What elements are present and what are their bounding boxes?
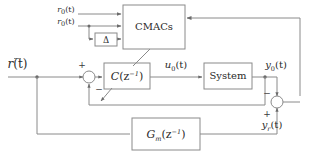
junction-dot-r0-second — [88, 25, 91, 28]
sign-sumleft-plus: + — [78, 60, 86, 70]
label-refmodel-close: ) — [181, 128, 185, 141]
label-rbar: r(t) — [8, 57, 28, 71]
label-rbar-arg: (t) — [13, 57, 27, 71]
svg-text:u0(t): u0(t) — [165, 59, 188, 73]
label-controller-exp: −1 — [129, 70, 139, 78]
label-r0-second-arg: (t) — [65, 17, 74, 26]
diagram-svg: CMACs Δ C(z−1) System Gm(z−1) r0(t) r0(t… — [0, 0, 309, 164]
svg-text:r(t): r(t) — [8, 57, 28, 71]
label-cmacs: CMACs — [135, 21, 173, 32]
svg-text:r0(t): r0(t) — [57, 5, 74, 16]
label-controller-arg: (z — [119, 70, 129, 83]
svg-text:C(z−1): C(z−1) — [111, 70, 143, 83]
label-r0-top-arg: (t) — [65, 5, 74, 14]
label-yr: yr(t) — [261, 119, 283, 133]
label-delta: Δ — [103, 35, 109, 45]
label-y0: y0(t) — [264, 59, 287, 73]
sum-right[interactable] — [271, 96, 283, 108]
sign-sumleft-minus: − — [95, 84, 103, 94]
label-r0-top: r0(t) — [57, 5, 74, 16]
label-system: System — [209, 70, 247, 81]
label-controller: C(z−1) — [111, 70, 143, 83]
label-refmodel-exp: −1 — [172, 128, 182, 136]
sum-left[interactable] — [83, 71, 95, 83]
label-y0-arg: (t) — [275, 59, 287, 70]
label-refmodel-arg: (z — [161, 128, 171, 141]
label-r0-second: r0(t) — [57, 17, 74, 28]
label-u0-arg: (t) — [175, 59, 187, 70]
sign-sumright-minus: − — [263, 88, 271, 98]
label-u0: u0(t) — [165, 59, 188, 73]
label-controller-close: ) — [139, 70, 143, 83]
svg-text:r0(t): r0(t) — [57, 17, 74, 28]
block-diagram-canvas: CMACs Δ C(z−1) System Gm(z−1) r0(t) r0(t… — [0, 0, 309, 164]
svg-text:y0(t): y0(t) — [264, 59, 287, 73]
label-yr-arg: (t) — [270, 119, 282, 130]
svg-text:yr(t): yr(t) — [261, 119, 283, 133]
sign-sumright-plus: + — [263, 109, 271, 119]
label-refmodel-base: G — [147, 128, 156, 141]
